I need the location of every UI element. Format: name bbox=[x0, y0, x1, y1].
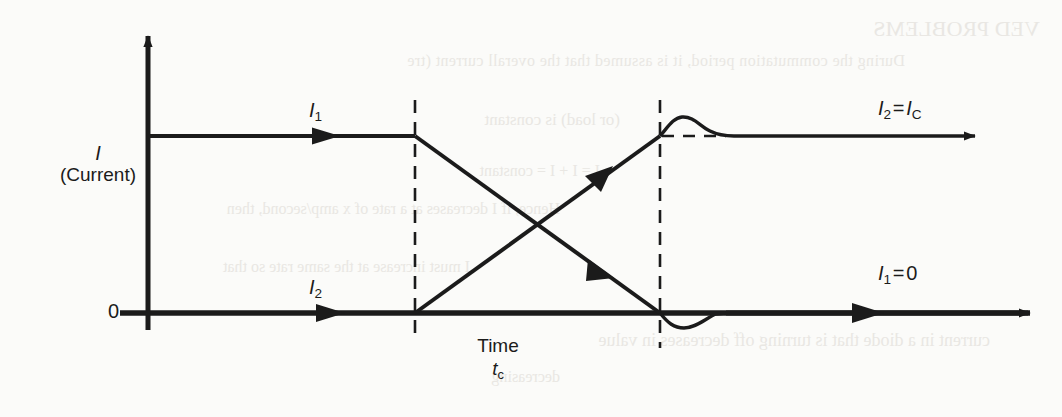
i1-plateau-direction-arrow-icon bbox=[312, 128, 340, 145]
i1-falling-direction-arrow-icon bbox=[586, 259, 614, 281]
y-axis-label: I (Current) bbox=[52, 142, 144, 186]
figure-page: VED PROBLEMS During the commutation peri… bbox=[0, 0, 1062, 417]
x-axis-label: Time tc bbox=[455, 335, 541, 382]
i1-final-subscript: 1 bbox=[884, 272, 892, 287]
i1-equals-zero-label: I1 = 0 bbox=[878, 262, 917, 287]
i1-final-value: 0 bbox=[906, 262, 917, 284]
i2-final-subscript: 2 bbox=[884, 107, 892, 122]
origin-zero-label: 0 bbox=[108, 300, 119, 322]
y-axis-name: (Current) bbox=[60, 164, 136, 185]
commutation-time-symbol: tc bbox=[455, 358, 541, 382]
i2-before-label: I2 bbox=[309, 276, 322, 301]
x-axis-label-text: Time bbox=[477, 335, 519, 356]
i2-final-equals: = bbox=[893, 97, 905, 119]
i1-final-equals: = bbox=[893, 262, 905, 284]
y-axis-symbol: I bbox=[52, 142, 144, 164]
i2-before-subscript: 2 bbox=[315, 286, 323, 301]
i2-equals-ic-label: I2 = IC bbox=[878, 97, 922, 122]
ic-subscript: C bbox=[912, 107, 922, 122]
i1-before-label: I1 bbox=[309, 99, 322, 124]
i2-baseline-direction-arrow-icon bbox=[316, 304, 345, 322]
tc-subscript: c bbox=[497, 367, 503, 382]
i2-overshoot-curve bbox=[660, 117, 734, 136]
i1-before-subscript: 1 bbox=[315, 109, 323, 124]
i1-final-direction-arrow-icon bbox=[852, 303, 884, 323]
